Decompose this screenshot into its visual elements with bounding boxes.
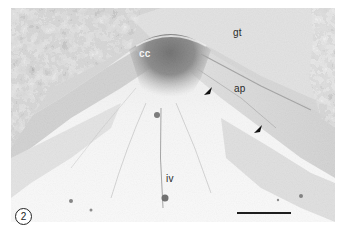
label-ap: ap bbox=[234, 84, 246, 94]
micrograph-figure: cc gt ap iv 2 bbox=[0, 0, 346, 237]
label-gt: gt bbox=[233, 28, 242, 38]
panel-number: 2 bbox=[15, 208, 32, 225]
arrowhead-icon bbox=[203, 86, 213, 96]
label-cc: cc bbox=[139, 49, 151, 59]
sem-micrograph bbox=[11, 8, 335, 222]
arrowhead-icon bbox=[253, 124, 263, 134]
scale-bar bbox=[237, 212, 291, 214]
label-iv: iv bbox=[166, 174, 174, 184]
micrograph-image bbox=[11, 8, 335, 222]
